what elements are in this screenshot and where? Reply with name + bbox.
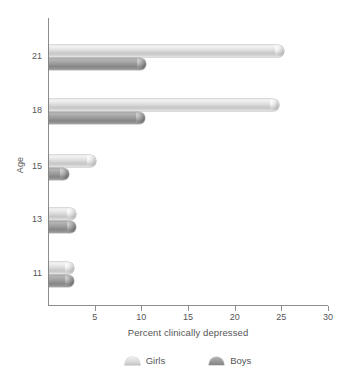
legend-label: Boys [230, 355, 251, 366]
bar-girls-age-21 [49, 45, 284, 57]
x-axis-tick [328, 306, 329, 311]
x-axis-tick-label: 5 [80, 312, 110, 322]
x-axis-tick [281, 306, 282, 311]
legend-label: Girls [146, 355, 166, 366]
legend-item-boys: Boys [209, 355, 251, 366]
y-axis-tick-label: 15 [16, 161, 42, 171]
x-axis-tick-label: 10 [126, 312, 156, 322]
bar-girls-age-13 [49, 208, 76, 220]
x-axis-tick [95, 306, 96, 311]
bar-cap [67, 208, 76, 220]
bar-girls-age-11 [49, 262, 74, 274]
x-axis-tick-label: 25 [266, 312, 296, 322]
x-axis-tick [141, 306, 142, 311]
bar-cap [67, 221, 76, 233]
bar-cap [136, 112, 145, 124]
girls-swatch-icon [125, 357, 140, 365]
legend-item-girls: Girls [125, 355, 166, 366]
bar-boys-age-13 [49, 221, 76, 233]
y-axis-tick-label: 18 [16, 105, 42, 115]
bar-boys-age-11 [49, 275, 74, 287]
bar-cap [87, 155, 96, 167]
bar-boys-age-18 [49, 112, 145, 124]
x-axis-title: Percent clinically depressed [48, 327, 328, 338]
bar-cap [137, 58, 146, 70]
bar-girls-age-18 [49, 99, 279, 111]
bar-chart: Age 1113151821 51015202530 Percent clini… [0, 0, 343, 382]
bar-cap [270, 99, 279, 111]
chart-legend: GirlsBoys [48, 355, 328, 366]
bar-cap [60, 168, 69, 180]
y-axis-tick-label: 21 [16, 51, 42, 61]
x-axis-tick-label: 15 [173, 312, 203, 322]
x-axis-tick-label: 20 [220, 312, 250, 322]
x-axis-tick-label: 30 [313, 312, 343, 322]
y-axis-tick-label: 13 [16, 214, 42, 224]
bar-boys-age-15 [49, 168, 69, 180]
bar-cap [65, 275, 74, 287]
y-axis-tick-label: 11 [16, 268, 42, 278]
x-axis-tick [235, 306, 236, 311]
bar-girls-age-15 [49, 155, 96, 167]
x-axis-tick [188, 306, 189, 311]
bar-boys-age-21 [49, 58, 146, 70]
bar-cap [65, 262, 74, 274]
bar-cap [275, 45, 284, 57]
boys-swatch-icon [209, 357, 224, 365]
